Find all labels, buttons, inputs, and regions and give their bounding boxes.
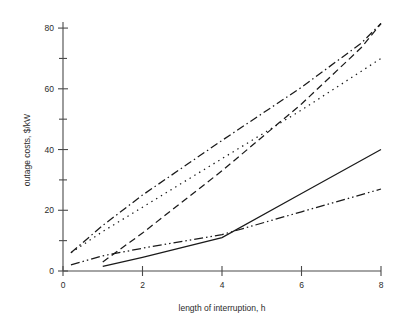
x-tick-label: 0 <box>61 280 66 290</box>
x-tick-label: 4 <box>220 280 225 290</box>
y-tick-label-group: 020406080 <box>45 23 55 276</box>
series-line <box>103 150 381 267</box>
series-line <box>71 58 381 252</box>
y-tick-label: 0 <box>49 266 54 276</box>
x-tick-label: 2 <box>140 280 145 290</box>
chart-svg: 020406080 outage costs, $/kW 02468 lengt… <box>0 0 406 334</box>
x-tick-label-group: 02468 <box>61 280 384 290</box>
y-axis: 020406080 outage costs, $/kW <box>22 22 68 276</box>
x-tick-label: 6 <box>299 280 304 290</box>
y-tick-label: 40 <box>45 145 55 155</box>
x-axis-title: length of interruption, h <box>179 303 266 313</box>
series-line <box>71 24 381 253</box>
x-axis: 02468 length of interruption, h <box>61 266 384 313</box>
y-axis-title: outage costs, $/kW <box>22 114 32 186</box>
plot-area <box>71 24 381 267</box>
series-line <box>71 189 381 265</box>
y-tick-label: 20 <box>45 205 55 215</box>
x-tick-label: 8 <box>379 280 384 290</box>
y-tick-label: 60 <box>45 84 55 94</box>
chart-figure: 020406080 outage costs, $/kW 02468 lengt… <box>0 0 406 334</box>
series-group <box>71 24 381 267</box>
y-tick-label: 80 <box>45 23 55 33</box>
